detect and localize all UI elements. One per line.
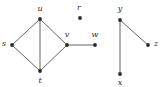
vertex-label-y: y xyxy=(118,5,123,13)
vertex-label-z: z xyxy=(154,40,158,48)
graph-vertex-x xyxy=(118,72,122,76)
graph-edge-t-v xyxy=(40,45,67,71)
vertex-layer xyxy=(10,16,150,76)
graph-vertex-u xyxy=(38,17,42,21)
edge-layer xyxy=(12,19,148,74)
vertex-label-w: w xyxy=(92,31,99,39)
graph-vertex-y xyxy=(118,18,122,22)
graph-edge-s-u xyxy=(12,19,40,45)
graph-vertex-s xyxy=(10,43,14,47)
vertex-label-t: t xyxy=(38,77,41,85)
graph-figure: ustvwryzx xyxy=(0,0,163,87)
graph-vertex-z xyxy=(146,43,150,47)
graph-edge-y-z xyxy=(120,20,148,45)
vertex-label-r: r xyxy=(77,4,81,12)
vertex-label-u: u xyxy=(37,5,42,13)
graph-vertex-r xyxy=(78,16,82,20)
graph-edge-u-v xyxy=(40,19,67,45)
graph-vertex-v xyxy=(65,43,69,47)
graph-edge-s-t xyxy=(12,45,40,71)
graph-vertex-w xyxy=(93,43,97,47)
graph-canvas xyxy=(0,0,163,87)
graph-vertex-t xyxy=(38,69,42,73)
vertex-label-x: x xyxy=(118,79,123,87)
vertex-label-s: s xyxy=(2,40,6,48)
vertex-label-v: v xyxy=(65,31,70,39)
